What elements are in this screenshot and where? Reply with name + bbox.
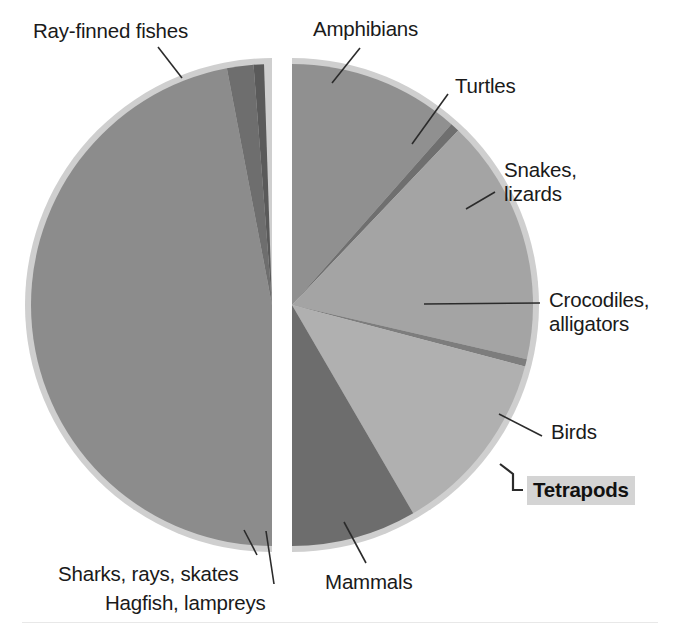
- label-crocodiles-alligators-line1: Crocodiles,: [549, 288, 649, 312]
- label-ray-finned-fishes: Ray-finned fishes: [33, 19, 188, 43]
- pie-slices-left: [31, 64, 272, 546]
- label-mammals: Mammals: [325, 570, 412, 594]
- label-crocodiles-alligators-line2: alligators: [549, 312, 629, 336]
- pie-chart-figure: Ray-finned fishes Amphibians Turtles Sna…: [0, 0, 680, 629]
- label-snakes-lizards-line1: Snakes,: [504, 158, 577, 182]
- label-turtles: Turtles: [455, 74, 516, 98]
- figure-bottom-rule: [22, 622, 658, 623]
- label-tetrapods: Tetrapods: [527, 476, 635, 505]
- label-amphibians: Amphibians: [313, 17, 418, 41]
- slice-ray-finned-fishes[interactable]: [31, 68, 272, 546]
- leader-line-crocodiles-alligators: [424, 303, 540, 304]
- leader-line-ray-finned-fishes: [158, 47, 182, 78]
- pie-slices-right: [292, 64, 533, 546]
- label-snakes-lizards-line2: lizards: [504, 182, 562, 206]
- bracket-tetrapods: [500, 464, 523, 490]
- label-birds: Birds: [551, 420, 597, 444]
- label-sharks-rays-skates: Sharks, rays, skates: [58, 562, 239, 586]
- label-hagfish-lampreys: Hagfish, lampreys: [105, 591, 266, 615]
